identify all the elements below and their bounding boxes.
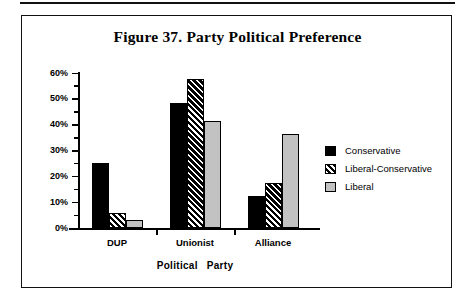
bar-unionist-conservative bbox=[170, 103, 187, 228]
bar-alliance-conservative bbox=[248, 196, 265, 228]
bar-alliance-liberal-conservative bbox=[265, 183, 282, 228]
y-tick-label: 60% bbox=[34, 69, 68, 78]
bar-alliance-liberal bbox=[282, 134, 299, 228]
y-tick-label: 20% bbox=[34, 172, 68, 181]
x-group-tick bbox=[234, 230, 236, 235]
chart-legend: ConservativeLiberal-ConservativeLiberal bbox=[325, 142, 432, 196]
legend-item: Liberal bbox=[325, 178, 432, 196]
x-axis-title-part1: Political bbox=[157, 260, 198, 271]
legend-label: Liberal-Conservative bbox=[345, 164, 432, 174]
legend-label: Conservative bbox=[345, 146, 400, 156]
bar-unionist-liberal bbox=[204, 121, 221, 228]
legend-item: Conservative bbox=[325, 142, 432, 160]
bar-dup-liberal-conservative bbox=[109, 213, 126, 229]
chart-title: Figure 37. Party Political Preference bbox=[22, 28, 453, 46]
y-tick-label: 50% bbox=[34, 94, 68, 103]
bar-dup-liberal bbox=[126, 220, 143, 228]
x-axis-line bbox=[69, 228, 320, 230]
y-tick-label: 30% bbox=[34, 146, 68, 155]
x-category-label: DUP bbox=[78, 237, 156, 248]
x-axis-title-part2: Party bbox=[207, 260, 234, 271]
bar-unionist-liberal-conservative bbox=[187, 79, 204, 228]
y-tick-label: 10% bbox=[34, 198, 68, 207]
x-category-label: Unionist bbox=[156, 237, 234, 248]
y-tick-label: 40% bbox=[34, 120, 68, 129]
page-top-rule bbox=[20, 2, 455, 4]
y-tick-label: 0% bbox=[34, 224, 68, 233]
figure-frame: Figure 37. Party Political Preference 0%… bbox=[21, 15, 452, 288]
x-group-tick bbox=[156, 230, 158, 235]
bar-dup-conservative bbox=[92, 163, 109, 228]
legend-label: Liberal bbox=[345, 182, 374, 192]
legend-swatch-icon bbox=[325, 164, 336, 174]
x-category-label: Alliance bbox=[234, 237, 312, 248]
plot-area bbox=[78, 73, 312, 228]
legend-item: Liberal-Conservative bbox=[325, 160, 432, 178]
legend-swatch-icon bbox=[325, 146, 336, 156]
legend-swatch-icon bbox=[325, 182, 336, 192]
x-axis-title: PoliticalParty bbox=[78, 260, 312, 271]
